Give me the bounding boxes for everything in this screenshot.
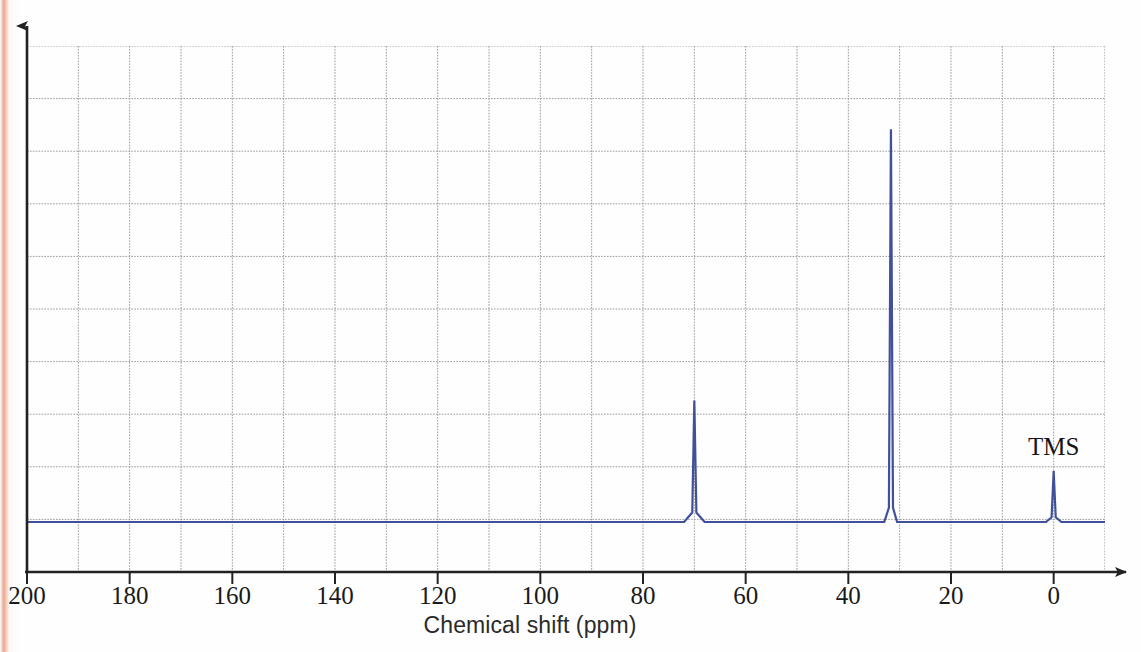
nmr-spectrum-figure: 200180160140120100806040200 Chemical shi… — [0, 0, 1141, 652]
x-axis-tick-label: 200 — [8, 582, 46, 610]
x-axis-tick-label: 0 — [1047, 582, 1060, 610]
x-axis-tick-label: 20 — [939, 582, 964, 610]
x-axis-tick-label: 180 — [111, 582, 149, 610]
peak-label-tms: TMS — [1028, 433, 1079, 461]
grid-vertical-lines — [27, 46, 1105, 572]
grid-horizontal-lines — [27, 46, 1105, 519]
x-axis-tick-label: 40 — [836, 582, 861, 610]
x-axis-tick-label: 100 — [522, 582, 560, 610]
page-edge-artifact — [0, 0, 9, 652]
x-axis-tick-label: 160 — [214, 582, 252, 610]
plot-area — [27, 46, 1105, 572]
x-axis-title: Chemical shift (ppm) — [0, 612, 1060, 639]
x-axis-tick-labels: 200180160140120100806040200 — [0, 582, 1141, 616]
grid-and-trace — [27, 46, 1105, 572]
x-axis-tick-label: 120 — [419, 582, 457, 610]
spectrum-trace — [27, 129, 1105, 522]
page-edge-gutter — [9, 0, 23, 652]
x-axis-tick-label: 60 — [733, 582, 758, 610]
x-axis-tick-label: 140 — [316, 582, 354, 610]
x-axis-tick-label: 80 — [631, 582, 656, 610]
